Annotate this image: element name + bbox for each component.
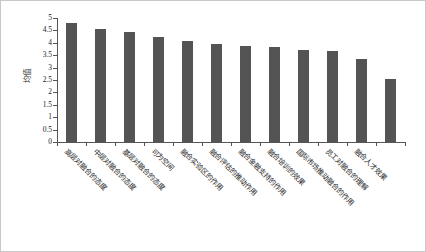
y-tick-label: 0	[48, 138, 52, 146]
y-tick	[53, 18, 57, 19]
bar	[211, 44, 223, 142]
y-tick-label: 5	[48, 14, 52, 22]
y-tick	[53, 80, 57, 81]
bar	[240, 46, 252, 142]
y-tick-label: 3.5	[43, 51, 52, 59]
bar	[153, 37, 165, 142]
x-axis-label: 国际市场推动融合的作用	[294, 148, 354, 208]
y-tick-label: 4.5	[43, 27, 52, 35]
y-tick-label: 2.5	[43, 76, 52, 84]
y-axis-title: 均值	[9, 59, 43, 93]
y-tick-label: 0.5	[43, 126, 52, 134]
y-tick-label: 1	[48, 113, 52, 121]
bar	[124, 32, 136, 142]
bar	[66, 23, 78, 142]
y-tick-label: 3	[48, 64, 52, 72]
x-axis-label: 可为空间	[149, 148, 174, 173]
bar	[298, 50, 310, 142]
y-tick-label: 4	[48, 39, 52, 47]
y-tick	[53, 117, 57, 118]
bar	[182, 41, 194, 142]
y-tick-label: 1.5	[43, 101, 52, 109]
x-axis-label-group: 高层对融合的态度中层对融合的态度基层对融合的态度可为空间融合实验区的作用融合评估…	[57, 142, 405, 250]
y-tick	[53, 130, 57, 131]
bar	[356, 59, 368, 142]
y-axis-line	[57, 18, 58, 142]
bar	[327, 51, 339, 142]
bar	[269, 47, 281, 142]
y-tick	[53, 68, 57, 69]
plot-area: 00.511.522.533.544.55	[57, 18, 405, 142]
y-tick	[53, 55, 57, 56]
bar	[385, 79, 397, 142]
y-tick-label: 2	[48, 89, 52, 97]
y-tick	[53, 30, 57, 31]
bar	[95, 29, 107, 142]
y-tick	[53, 105, 57, 106]
x-tick	[405, 142, 406, 146]
y-tick	[53, 43, 57, 44]
bar-chart: 均值 00.511.522.533.544.55 高层对融合的态度中层对融合的态…	[0, 0, 426, 252]
y-tick	[53, 92, 57, 93]
